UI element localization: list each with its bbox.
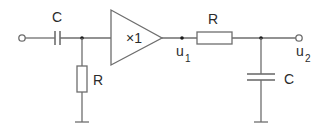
node-u1-dot [180,36,184,40]
output-terminal [296,35,302,41]
output-capacitor [247,74,275,80]
node-u2-subscript: 2 [305,53,311,64]
output-resistor [197,32,232,44]
input-capacitor-label: C [52,9,62,25]
input-capacitor [55,31,60,45]
input-resistor [77,66,87,92]
node-u1-label: u [176,43,184,59]
circuit-diagram: C R ×1 u 1 R C u 2 [0,0,324,132]
input-terminal [19,35,25,41]
output-resistor-label: R [208,11,218,27]
node-u1-subscript: 1 [185,53,191,64]
node-u2-label: u [296,43,304,59]
output-capacitor-label: C [284,71,294,87]
input-resistor-label: R [93,72,103,88]
buffer-gain-label: ×1 [126,30,142,46]
